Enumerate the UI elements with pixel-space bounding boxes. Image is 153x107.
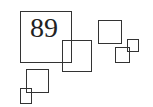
- upper-right-box: [98, 20, 122, 44]
- tiny-lower-left-box: [20, 88, 32, 104]
- tiny-right-box: [127, 39, 139, 52]
- number-label: 89: [30, 14, 58, 42]
- diagram-canvas: [0, 0, 153, 107]
- middle-box: [62, 40, 92, 72]
